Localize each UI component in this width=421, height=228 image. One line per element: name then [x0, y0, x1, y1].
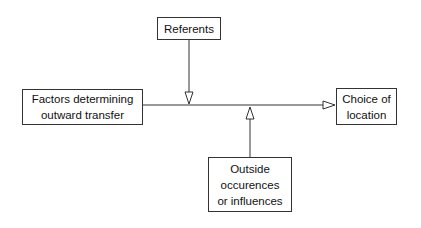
node-factors: Factors determining outward transfer	[22, 89, 143, 125]
arrowhead-referents	[185, 92, 193, 104]
node-choice-line-1: Choice of	[342, 91, 391, 107]
node-outside-line-2: occurences	[217, 177, 282, 193]
node-referents: Referents	[157, 17, 221, 40]
node-factors-line-1: Factors determining	[32, 91, 134, 107]
node-outside: Outside occurences or influences	[208, 157, 292, 212]
node-choice: Choice of location	[336, 88, 397, 125]
arrowhead-choice	[323, 101, 335, 109]
node-outside-line-3: or influences	[217, 193, 282, 209]
arrowhead-outside	[246, 107, 254, 119]
node-outside-line-1: Outside	[217, 161, 282, 177]
node-choice-line-2: location	[342, 107, 391, 123]
node-factors-line-2: outward transfer	[32, 107, 134, 123]
node-referents-line-1: Referents	[164, 21, 214, 37]
